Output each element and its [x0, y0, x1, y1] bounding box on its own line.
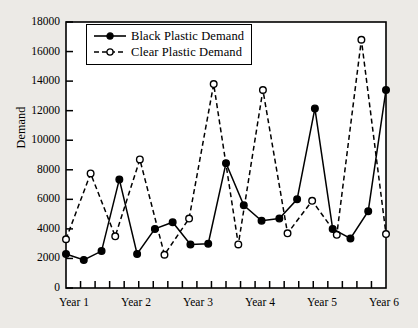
data-point [312, 105, 319, 112]
x-axis-tick-label: Year 5 [292, 297, 352, 309]
chart-container: Demand 020004000600080001000012000140001… [0, 0, 418, 328]
data-point [205, 240, 212, 247]
data-point [112, 233, 119, 240]
data-point [186, 215, 193, 222]
data-point [98, 248, 105, 255]
data-point [137, 156, 144, 163]
x-axis-tick-label: Year 1 [44, 297, 104, 309]
data-point [210, 81, 217, 88]
data-point [134, 251, 141, 258]
x-axis-tick-label: Year 6 [354, 297, 414, 309]
data-point [294, 196, 301, 203]
data-point [383, 87, 390, 94]
legend-item-black-plastic-demand: Black Plastic Demand [93, 28, 244, 44]
x-axis-tick-label: Year 3 [168, 297, 228, 309]
data-point [260, 87, 267, 94]
legend-label-clear-plastic-demand: Clear Plastic Demand [131, 45, 242, 60]
data-point [80, 257, 87, 264]
data-point [365, 208, 372, 215]
x-axis-tick-label: Year 4 [230, 297, 290, 309]
data-point [116, 176, 123, 183]
data-point [276, 215, 283, 222]
chart-legend: Black Plastic Demand Clear Plastic Deman… [86, 24, 252, 65]
data-point [187, 241, 194, 248]
data-point [258, 217, 265, 224]
legend-item-clear-plastic-demand: Clear Plastic Demand [93, 44, 244, 60]
data-point [169, 219, 176, 226]
data-point [223, 160, 230, 167]
data-point [235, 241, 242, 248]
legend-label-black-plastic-demand: Black Plastic Demand [131, 29, 244, 44]
data-point [329, 226, 336, 233]
x-axis-tick-labels: Year 1Year 2Year 3Year 4Year 5Year 6 [0, 297, 418, 317]
data-point [63, 236, 70, 243]
data-point [152, 226, 159, 233]
data-point [383, 231, 390, 238]
data-point [240, 202, 247, 209]
data-point [309, 198, 316, 205]
legend-marker-open-circle [93, 46, 127, 58]
data-point [358, 36, 365, 43]
data-point [63, 251, 70, 258]
data-point [87, 170, 94, 177]
x-axis-tick-label: Year 2 [106, 297, 166, 309]
data-point [161, 251, 168, 258]
data-point [284, 230, 291, 237]
x-axis-ticks [81, 281, 372, 288]
legend-marker-filled-circle [93, 30, 127, 42]
data-point [347, 235, 354, 242]
